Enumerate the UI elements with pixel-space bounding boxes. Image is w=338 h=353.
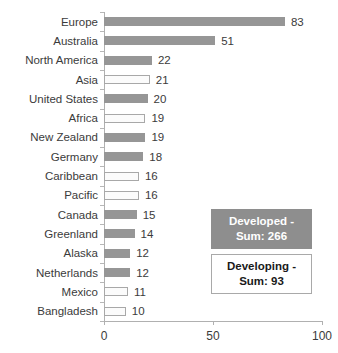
x-axis-tick [322,321,323,325]
category-label: North America [0,54,98,66]
bar-value-label: 16 [145,170,158,182]
bar-value-label: 21 [156,74,169,86]
bar-value-label: 12 [136,247,149,259]
bar-value-label: 20 [154,93,167,105]
x-axis-tick [213,321,214,325]
bar-value-label: 22 [158,54,171,66]
category-label: Alaska [0,247,98,259]
bar-value-label: 18 [149,151,162,163]
bar-value-label: 10 [132,305,145,317]
y-axis-tick [100,31,104,32]
bar [104,114,145,123]
category-label: Australia [0,35,98,47]
bar-value-label: 15 [143,209,156,221]
bar-value-label: 83 [291,16,304,28]
category-label: Caribbean [0,170,98,182]
bar [104,287,128,296]
y-axis-tick [100,263,104,264]
y-axis-tick [100,89,104,90]
bar [104,75,150,84]
bar [104,210,137,219]
bar-value-label: 16 [145,189,158,201]
legend-developing: Developing - Sum: 93 [211,254,312,294]
bar [104,229,135,238]
legend-developed-line1: Developed - [214,214,309,229]
y-axis-tick [100,244,104,245]
y-axis-tick [100,186,104,187]
bar [104,133,145,142]
y-axis-tick [100,282,104,283]
category-label: Canada [0,209,98,221]
bar-value-label: 51 [221,35,234,47]
y-axis-tick [100,205,104,206]
y-axis-tick [100,302,104,303]
y-axis-tick [100,224,104,225]
bar [104,36,215,45]
bar [104,152,143,161]
bar [104,191,139,200]
legend-developed-line2: Sum: 266 [214,229,309,244]
bar [104,249,130,258]
category-label: Germany [0,151,98,163]
bar-chart: Europe83Australia51North America22Asia21… [0,0,338,353]
bar-value-label: 19 [151,112,164,124]
category-label: Asia [0,74,98,86]
x-axis-tick-label: 100 [302,329,338,343]
y-axis-tick [100,12,104,13]
category-label: New Zealand [0,131,98,143]
y-axis-tick [100,166,104,167]
category-label: Pacific [0,189,98,201]
category-label: Bangladesh [0,305,98,317]
legend-developed: Developed - Sum: 266 [211,209,312,249]
y-axis-tick [100,128,104,129]
category-label: Mexico [0,286,98,298]
y-axis-tick [100,109,104,110]
bar [104,307,126,316]
category-label: Greenland [0,228,98,240]
legend-developing-line2: Sum: 93 [214,274,309,289]
bar [104,56,152,65]
bar-value-label: 19 [151,131,164,143]
legend-developing-line1: Developing - [214,259,309,274]
category-label: Europe [0,16,98,28]
y-axis-tick [100,147,104,148]
category-label: United States [0,93,98,105]
x-axis-tick-label: 0 [84,329,124,343]
y-axis-tick [100,51,104,52]
x-axis-tick [104,321,105,325]
bar [104,94,148,103]
bar [104,268,130,277]
x-axis-tick-label: 50 [193,329,233,343]
bar [104,172,139,181]
bar-value-label: 11 [134,286,146,298]
category-label: Africa [0,112,98,124]
category-label: Netherlands [0,267,98,279]
y-axis-tick [100,70,104,71]
bar [104,17,285,26]
bar-value-label: 14 [141,228,154,240]
bar-value-label: 12 [136,267,149,279]
